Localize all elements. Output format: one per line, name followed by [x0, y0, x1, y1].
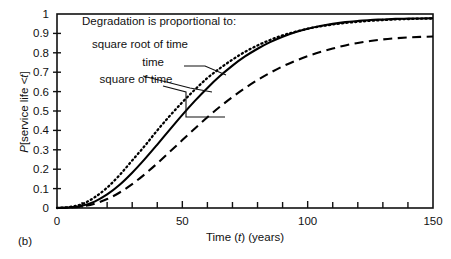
- x-tick-label: 100: [298, 215, 317, 227]
- y-tick-label: 0.6: [33, 86, 49, 98]
- y-tick-label: 0.5: [33, 105, 49, 117]
- series-square-of-time: [57, 37, 433, 209]
- x-axis-title: Time (t) (years): [206, 231, 284, 243]
- y-tick-label: 0.3: [33, 144, 49, 156]
- chart-canvas: 00.10.20.30.40.50.60.70.80.91 050100150 …: [0, 0, 451, 259]
- series-label-2: time: [142, 56, 164, 68]
- x-tick-label: 150: [423, 215, 442, 227]
- series-label-3: square of time: [100, 73, 173, 85]
- x-tick-label: 50: [176, 215, 189, 227]
- series-label-1: square root of time: [92, 38, 188, 50]
- x-tick-label: 0: [54, 215, 60, 227]
- y-tick-label: 0.9: [33, 27, 49, 39]
- y-tick-label: 0.1: [33, 183, 49, 195]
- y-tick-label: 0.8: [33, 47, 49, 59]
- x-axis-ticks: [82, 201, 408, 208]
- figure-caption: (b): [18, 235, 32, 247]
- y-tick-label: 0.7: [33, 66, 49, 78]
- y-tick-label: 0.4: [33, 124, 50, 136]
- figure-container: 00.10.20.30.40.50.60.70.80.91 050100150 …: [0, 0, 451, 259]
- y-tick-label: 0.2: [33, 163, 49, 175]
- y-axis-tick-labels: 00.10.20.30.40.50.60.70.80.91: [33, 8, 50, 214]
- y-tick-label: 1: [43, 8, 49, 20]
- y-axis-title: P[service life <t]: [18, 71, 30, 153]
- x-axis-tick-labels: 050100150: [54, 215, 443, 227]
- legend-title: Degradation is proportional to:: [82, 15, 236, 27]
- y-tick-label: 0: [43, 202, 49, 214]
